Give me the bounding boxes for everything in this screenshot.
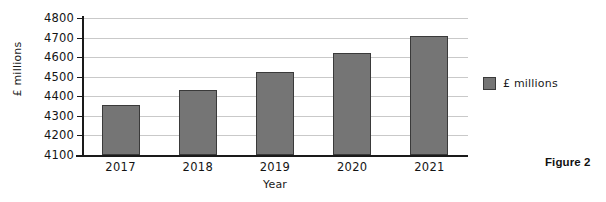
y-tick-label-4200: 4200	[30, 129, 74, 141]
bar-2017	[102, 105, 140, 155]
figure-caption: Figure 2	[545, 156, 591, 168]
chart-legend: £ millions	[483, 77, 558, 90]
x-axis-title: Year	[82, 178, 468, 191]
y-tick-label-4600: 4600	[30, 51, 74, 63]
bars-layer	[82, 18, 468, 155]
y-tick-label-4800: 4800	[30, 12, 74, 24]
y-axis-title: £ millions	[9, 19, 27, 119]
y-tick-label-4500: 4500	[30, 71, 74, 83]
y-tick-label-4300: 4300	[30, 110, 74, 122]
y-tick-label-4100: 4100	[30, 149, 74, 161]
bar-2020	[333, 53, 371, 155]
x-axis-line	[76, 155, 468, 157]
bar-2021	[410, 36, 448, 155]
legend-swatch-pound-millions	[483, 77, 496, 90]
x-tick-label-2020: 2020	[314, 160, 391, 174]
bar-2019	[256, 72, 294, 155]
x-tick-label-2021: 2021	[391, 160, 468, 174]
bar-2018	[179, 90, 217, 155]
x-tick-label-2017: 2017	[82, 160, 159, 174]
y-axis-tick-labels: 48004700460045004400430042004100	[30, 10, 74, 165]
y-tick-label-4700: 4700	[30, 32, 74, 44]
figure-2-bar-chart: £ millions 48004700460045004400430042004…	[0, 0, 606, 202]
legend-label-pound-millions: £ millions	[503, 77, 558, 90]
y-tick-label-4400: 4400	[30, 90, 74, 102]
x-tick-label-2018: 2018	[159, 160, 236, 174]
x-tick-label-2019: 2019	[236, 160, 313, 174]
x-axis-tick-labels: 20172018201920202021	[82, 160, 468, 176]
